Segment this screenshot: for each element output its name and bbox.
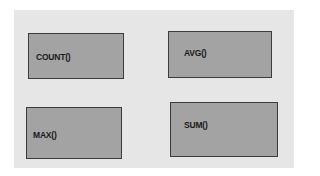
count-function-label: COUNT() bbox=[36, 52, 70, 62]
count-function-box: COUNT() bbox=[28, 33, 124, 79]
avg-function-box: AVG() bbox=[168, 31, 272, 78]
sum-function-label: SUM() bbox=[184, 120, 208, 130]
max-function-box: MAX() bbox=[26, 107, 122, 159]
avg-function-label: AVG() bbox=[184, 48, 206, 58]
sum-function-box: SUM() bbox=[170, 102, 278, 157]
max-function-label: MAX() bbox=[33, 130, 57, 140]
